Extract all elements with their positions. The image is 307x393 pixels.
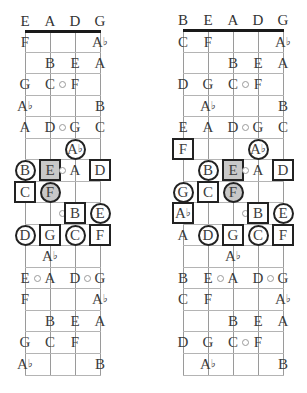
note-plain: A♭ <box>40 246 60 266</box>
note-plain: C <box>273 117 293 137</box>
note-plain: A <box>248 160 268 180</box>
note-square: B <box>247 202 269 224</box>
note-plain: A <box>90 311 110 331</box>
note-plain: G <box>65 117 85 137</box>
string-name-g: G <box>90 14 110 29</box>
string-name-b: B <box>173 13 193 28</box>
note-circle: G <box>173 182 194 203</box>
note-plain: B <box>40 53 60 73</box>
note-plain: A♭ <box>90 289 110 309</box>
note-circle: E <box>273 203 294 224</box>
note-plain: C <box>173 32 193 52</box>
note-plain: D <box>40 117 60 137</box>
note-plain: D <box>248 268 268 288</box>
note-plain: A♭ <box>15 354 35 374</box>
note-plain: A <box>15 117 35 137</box>
fret-line <box>183 138 284 139</box>
note-plain: G <box>15 332 35 352</box>
note-circle: F <box>40 182 61 203</box>
note-circle: A♭ <box>65 139 86 160</box>
string-name-a: A <box>223 13 243 28</box>
note-plain: A♭ <box>273 32 293 52</box>
note-plain: A <box>65 160 85 180</box>
note-plain: E <box>248 311 268 331</box>
note-plain: A <box>273 311 293 331</box>
note-plain: B <box>40 311 60 331</box>
note-square: A♭ <box>172 202 194 224</box>
note-plain: C <box>40 74 60 94</box>
string-name-e: E <box>15 14 35 29</box>
note-plain: G <box>198 332 218 352</box>
note-plain: F <box>65 332 85 352</box>
note-plain: F <box>65 74 85 94</box>
note-circle: C <box>65 225 86 246</box>
note-square: D <box>272 159 294 181</box>
note-plain: C <box>223 332 243 352</box>
note-square: E <box>222 159 244 181</box>
note-plain: E <box>198 268 218 288</box>
note-plain: G <box>198 74 218 94</box>
note-plain: A <box>173 225 193 245</box>
note-square: F <box>272 224 294 246</box>
string-name-e: E <box>198 13 218 28</box>
note-circle: B <box>15 160 36 181</box>
note-plain: G <box>90 268 110 288</box>
note-plain: B <box>223 53 243 73</box>
note-plain: D <box>223 117 243 137</box>
note-square: C <box>14 181 36 203</box>
note-plain: F <box>198 289 218 309</box>
note-plain: A♭ <box>273 289 293 309</box>
fret-line <box>25 138 101 139</box>
note-plain: D <box>173 74 193 94</box>
note-plain: A♭ <box>198 96 218 116</box>
note-circle: D <box>15 225 36 246</box>
string-name-d: D <box>248 13 268 28</box>
note-circle: F <box>223 182 244 203</box>
note-plain: F <box>248 332 268 352</box>
note-plain: B <box>173 268 193 288</box>
fret-line <box>25 202 101 203</box>
fret-line <box>25 181 101 182</box>
note-plain: A <box>223 268 243 288</box>
note-square: F <box>172 138 194 160</box>
string-name-a: A <box>40 14 60 29</box>
note-plain: F <box>248 74 268 94</box>
note-plain: F <box>15 289 35 309</box>
fretboard-diagrams: EADGFA♭BEAGCFA♭BADGCA♭BEADCFBEDGCFA♭EADG… <box>0 0 307 393</box>
note-square: D <box>89 159 111 181</box>
note-plain: E <box>65 53 85 73</box>
note-circle: B <box>198 160 219 181</box>
note-plain: E <box>65 311 85 331</box>
note-plain: A♭ <box>90 32 110 52</box>
note-plain: C <box>40 332 60 352</box>
note-square: C <box>197 181 219 203</box>
note-plain: F <box>15 32 35 52</box>
note-plain: A♭ <box>223 246 243 266</box>
note-plain: B <box>273 354 293 374</box>
note-plain: E <box>173 117 193 137</box>
note-plain: E <box>15 268 35 288</box>
note-plain: B <box>90 354 110 374</box>
note-plain: D <box>65 268 85 288</box>
fret-line <box>25 375 101 376</box>
note-plain: B <box>223 311 243 331</box>
note-circle: E <box>90 203 111 224</box>
note-square: B <box>64 202 86 224</box>
note-circle: A♭ <box>248 139 269 160</box>
note-circle: D <box>198 225 219 246</box>
fret-line <box>25 73 101 74</box>
fret-line <box>25 331 101 332</box>
note-plain: G <box>273 268 293 288</box>
note-plain: A <box>90 53 110 73</box>
note-circle: C <box>248 225 269 246</box>
note-square: G <box>39 224 61 246</box>
note-plain: A <box>198 117 218 137</box>
note-plain: A♭ <box>15 96 35 116</box>
note-plain: G <box>248 117 268 137</box>
note-plain: B <box>90 96 110 116</box>
fret-line <box>183 375 284 376</box>
note-plain: A <box>273 53 293 73</box>
note-square: G <box>222 224 244 246</box>
note-plain: E <box>248 53 268 73</box>
note-plain: G <box>15 74 35 94</box>
